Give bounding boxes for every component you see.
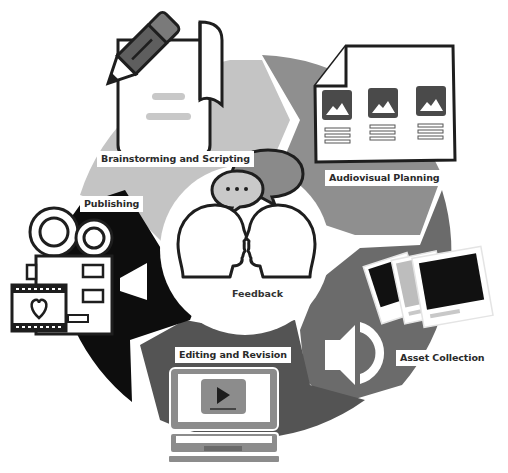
stage-label-audiovisual: Audiovisual Planning [325,170,444,186]
pencil-scroll-icon [99,11,222,155]
content-cycle-diagram [0,0,508,473]
stage-label-brainstorming: Brainstorming and Scripting [97,151,254,167]
storyboard-icon [315,46,455,162]
laptop-play-icon [168,368,280,463]
stage-label-editing: Editing and Revision [175,347,291,363]
center-label-feedback: Feedback [232,288,283,299]
stage-label-asset-collection: Asset Collection [396,350,489,366]
stage-label-publishing: Publishing [80,196,143,212]
